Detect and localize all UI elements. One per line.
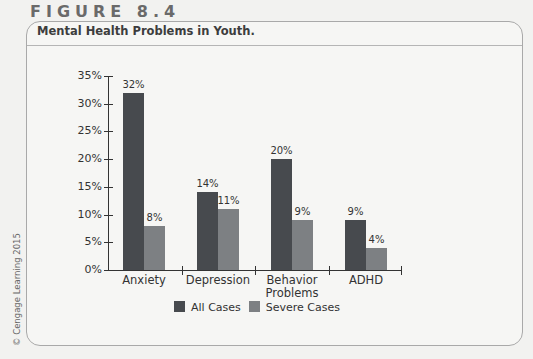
y-tick-label: 5%: [60, 235, 102, 248]
y-tick-label: 0%: [60, 263, 102, 276]
bar-severe-cases: [218, 209, 239, 270]
y-tick: [104, 76, 113, 77]
value-label-severe: 9%: [288, 206, 318, 217]
y-tick: [104, 242, 113, 243]
legend-item-all-cases: All Cases: [174, 301, 241, 314]
value-label-severe: 4%: [362, 234, 392, 245]
category-label: Depression: [181, 274, 255, 287]
y-tick-label: 15%: [60, 180, 102, 193]
y-tick-label: 20%: [60, 152, 102, 165]
bar-severe-cases: [292, 220, 313, 270]
y-tick: [104, 270, 113, 271]
y-tick-label: 35%: [60, 69, 102, 82]
bar-all-cases: [123, 93, 144, 270]
y-tick-label: 25%: [60, 124, 102, 137]
value-label-all: 9%: [341, 206, 371, 217]
bar-all-cases: [345, 220, 366, 270]
value-label-severe: 11%: [214, 195, 244, 206]
y-tick-label: 10%: [60, 208, 102, 221]
category-label: ADHD: [329, 274, 403, 287]
value-label-all: 20%: [267, 145, 297, 156]
bar-severe-cases: [144, 226, 165, 270]
category-label: Anxiety: [107, 274, 181, 287]
y-tick: [104, 187, 113, 188]
legend-swatch-all-cases: [174, 301, 185, 312]
y-tick: [104, 131, 113, 132]
y-tick-label: 30%: [60, 97, 102, 110]
legend: All Cases Severe Cases: [174, 301, 340, 314]
value-label-all: 32%: [119, 79, 149, 90]
value-label-all: 14%: [193, 178, 223, 189]
legend-item-severe-cases: Severe Cases: [249, 301, 340, 314]
y-tick: [104, 104, 113, 105]
legend-swatch-severe-cases: [249, 301, 260, 312]
value-label-severe: 8%: [140, 212, 170, 223]
bar-severe-cases: [366, 248, 387, 270]
y-tick: [104, 215, 113, 216]
category-label: BehaviorProblems: [255, 274, 329, 300]
y-tick: [104, 159, 113, 160]
